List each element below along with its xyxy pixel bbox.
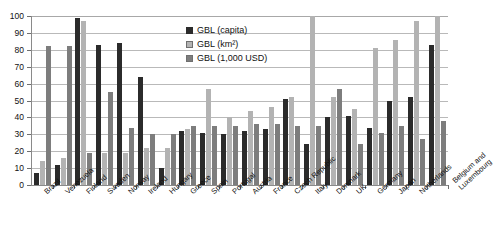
legend-swatch-icon bbox=[186, 55, 193, 62]
bar-group bbox=[427, 16, 448, 185]
y-tick-label: 10 bbox=[15, 164, 24, 172]
bar-usd bbox=[108, 92, 113, 185]
bar-group bbox=[53, 16, 74, 185]
bar-usd bbox=[171, 134, 176, 185]
bar-group bbox=[406, 16, 427, 185]
legend-swatch-icon bbox=[186, 41, 193, 48]
bar-capita bbox=[75, 18, 80, 185]
bar-capita bbox=[429, 45, 434, 185]
bar-capita bbox=[96, 45, 101, 185]
bar-usd bbox=[67, 46, 72, 185]
bar-capita bbox=[325, 117, 330, 185]
bar-group bbox=[282, 16, 303, 185]
bar-km2 bbox=[310, 16, 315, 185]
bar-usd bbox=[233, 126, 238, 185]
bar-capita bbox=[283, 99, 288, 185]
legend-label: GBL (capita) bbox=[197, 25, 247, 35]
bar-usd bbox=[379, 133, 384, 185]
bar-capita bbox=[408, 97, 413, 185]
bar-group bbox=[365, 16, 386, 185]
bar-group bbox=[157, 16, 178, 185]
bar-capita bbox=[117, 43, 122, 185]
bar-km2 bbox=[289, 97, 294, 185]
bar-km2 bbox=[393, 40, 398, 185]
bar-group bbox=[344, 16, 365, 185]
legend-label: GBL (km²) bbox=[197, 39, 238, 49]
y-tick-label: 20 bbox=[15, 147, 24, 155]
y-tick-label: 80 bbox=[15, 46, 24, 54]
bar-km2 bbox=[373, 48, 378, 185]
legend-item: GBL (km²) bbox=[186, 38, 267, 50]
bar-usd bbox=[295, 126, 300, 185]
bar-km2 bbox=[227, 117, 232, 185]
legend-item: GBL (capita) bbox=[186, 24, 267, 36]
bar-group bbox=[302, 16, 323, 185]
bar-km2 bbox=[81, 21, 86, 185]
bar-capita bbox=[387, 101, 392, 186]
bar-group bbox=[32, 16, 53, 185]
legend-swatch-icon bbox=[186, 27, 193, 34]
bar-group bbox=[386, 16, 407, 185]
bar-group bbox=[136, 16, 157, 185]
bar-km2 bbox=[40, 161, 45, 185]
bar-km2 bbox=[206, 89, 211, 185]
bar-capita bbox=[138, 77, 143, 185]
y-axis: 0102030405060708090100 bbox=[0, 16, 28, 186]
bar-km2 bbox=[414, 21, 419, 185]
y-tick-label: 90 bbox=[15, 29, 24, 37]
bar-usd bbox=[46, 46, 51, 185]
x-axis-labels: BrazilVenezuelaFinlandSwedenNorwayIrelan… bbox=[0, 188, 455, 250]
legend-item: GBL (1,000 USD) bbox=[186, 52, 267, 64]
y-tick-label: 30 bbox=[15, 130, 24, 138]
y-tick-label: 50 bbox=[15, 97, 24, 105]
bar-km2 bbox=[61, 158, 66, 185]
bar-km2 bbox=[435, 16, 440, 185]
y-tick-label: 40 bbox=[15, 113, 24, 121]
bar-usd bbox=[212, 126, 217, 185]
y-tick-label: 60 bbox=[15, 80, 24, 88]
bar-group bbox=[115, 16, 136, 185]
bar-capita bbox=[34, 173, 39, 185]
bar-capita bbox=[367, 128, 372, 185]
bar-group bbox=[74, 16, 95, 185]
bar-group bbox=[94, 16, 115, 185]
y-tick-label: 70 bbox=[15, 63, 24, 71]
bar-km2 bbox=[269, 107, 274, 185]
bar-usd bbox=[420, 139, 425, 185]
legend-label: GBL (1,000 USD) bbox=[197, 53, 267, 63]
bar-usd bbox=[337, 89, 342, 185]
bar-km2 bbox=[331, 97, 336, 185]
y-tick-label: 100 bbox=[10, 12, 24, 20]
chart-legend: GBL (capita)GBL (km²)GBL (1,000 USD) bbox=[186, 24, 267, 64]
bar-usd bbox=[275, 124, 280, 185]
